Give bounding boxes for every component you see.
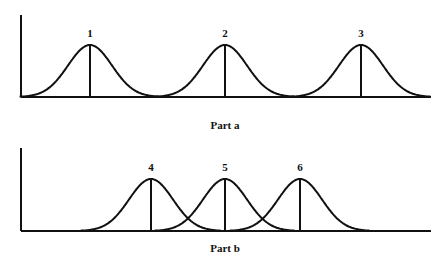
panel-part-b: 456 — [21, 148, 431, 231]
resolution-diagram: 123 Part a 456 Part b — [0, 0, 447, 265]
caption-part-b: Part b — [210, 242, 240, 254]
peak-label: 4 — [148, 161, 154, 173]
peak-label: 1 — [87, 27, 93, 39]
peak-label: 2 — [222, 27, 228, 39]
caption-part-a: Part a — [210, 119, 240, 131]
peak-label: 6 — [297, 161, 303, 173]
peak-label: 3 — [358, 27, 364, 39]
panel-part-a: 123 — [20, 15, 431, 97]
peak-label: 5 — [222, 161, 228, 173]
